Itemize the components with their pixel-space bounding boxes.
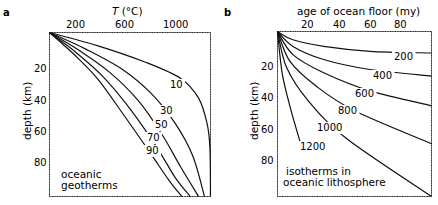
panel-b-letter: b — [224, 7, 231, 18]
curve-label-70: 70 — [147, 132, 160, 143]
panel-b-ytick: 80 — [261, 155, 274, 166]
panel-b-xtick: 60 — [364, 19, 377, 30]
panel-a-xtick: 1000 — [163, 19, 188, 30]
curve-label-30: 30 — [160, 105, 173, 116]
panel-b-ytick: 40 — [261, 92, 274, 103]
panel-a-letter: a — [3, 7, 10, 18]
curve-label-50: 50 — [155, 119, 168, 130]
panel-a-curve-labels: 1030507090 — [144, 79, 185, 157]
panel-a-ytick: 60 — [34, 126, 47, 137]
panel-b-xlabel: age of ocean floor (my) — [297, 5, 420, 17]
panel-b-ylabel: depth (km) — [248, 82, 260, 140]
panel-b-ytick: 20 — [261, 61, 274, 72]
panel-a-ylabel: depth (km) — [21, 82, 33, 140]
panel-a-xlabel: T (°C) — [112, 5, 143, 17]
panel-a-annotation-2: geotherms — [61, 179, 118, 191]
curve-label-200: 200 — [394, 51, 413, 62]
curve-label-1200: 1200 — [300, 141, 325, 152]
panel-a: a T (°C) 200 600 1000 depth (km) 20 40 6… — [3, 5, 211, 197]
curve-label-600: 600 — [355, 88, 374, 99]
panel-b-curve-labels: 20040060080010001200 — [298, 51, 416, 153]
panel-b-xtick: 40 — [333, 19, 346, 30]
curve-label-10: 10 — [170, 79, 183, 90]
panel-b-xtick: 80 — [394, 19, 407, 30]
panel-a-ytick: 40 — [34, 95, 47, 106]
panel-b: b age of ocean floor (my) 20 40 60 80 de… — [224, 5, 432, 197]
curve-label-400: 400 — [373, 70, 392, 81]
curve-label-1000: 1000 — [317, 122, 342, 133]
panel-b-ytick: 60 — [261, 124, 274, 135]
figure: a T (°C) 200 600 1000 depth (km) 20 40 6… — [0, 0, 438, 205]
curve-label-90: 90 — [146, 145, 159, 156]
panel-a-xtick: 200 — [66, 19, 85, 30]
panel-b-annotation-2: oceanic lithosphere — [283, 176, 386, 188]
curve-label-800: 800 — [338, 105, 357, 116]
curve-200 — [278, 32, 432, 54]
panel-a-xtick: 600 — [115, 19, 134, 30]
panel-b-xtick: 20 — [301, 19, 314, 30]
panel-a-ytick: 80 — [34, 157, 47, 168]
panel-a-ytick: 20 — [34, 63, 47, 74]
